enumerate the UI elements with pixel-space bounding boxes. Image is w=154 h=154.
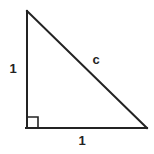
vertical-leg-label: 1 (6, 62, 20, 75)
hypotenuse-line (27, 11, 147, 128)
triangle-drawing (0, 0, 154, 154)
horizontal-leg-label: 1 (75, 134, 89, 147)
right-triangle-figure: 1 1 c (0, 0, 154, 154)
right-angle-marker-icon (27, 117, 38, 128)
hypotenuse-label: c (89, 53, 103, 66)
